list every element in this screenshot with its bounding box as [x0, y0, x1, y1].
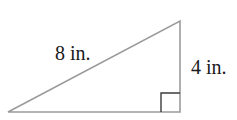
triangle-outline	[8, 21, 180, 112]
triangle-figure: 8 in. 4 in.	[0, 0, 237, 120]
hypotenuse-label: 8 in.	[55, 42, 91, 64]
right-angle-marker	[161, 93, 180, 112]
vertical-side-label: 4 in.	[191, 56, 227, 78]
triangle-diagram-svg: 8 in. 4 in.	[0, 0, 237, 120]
